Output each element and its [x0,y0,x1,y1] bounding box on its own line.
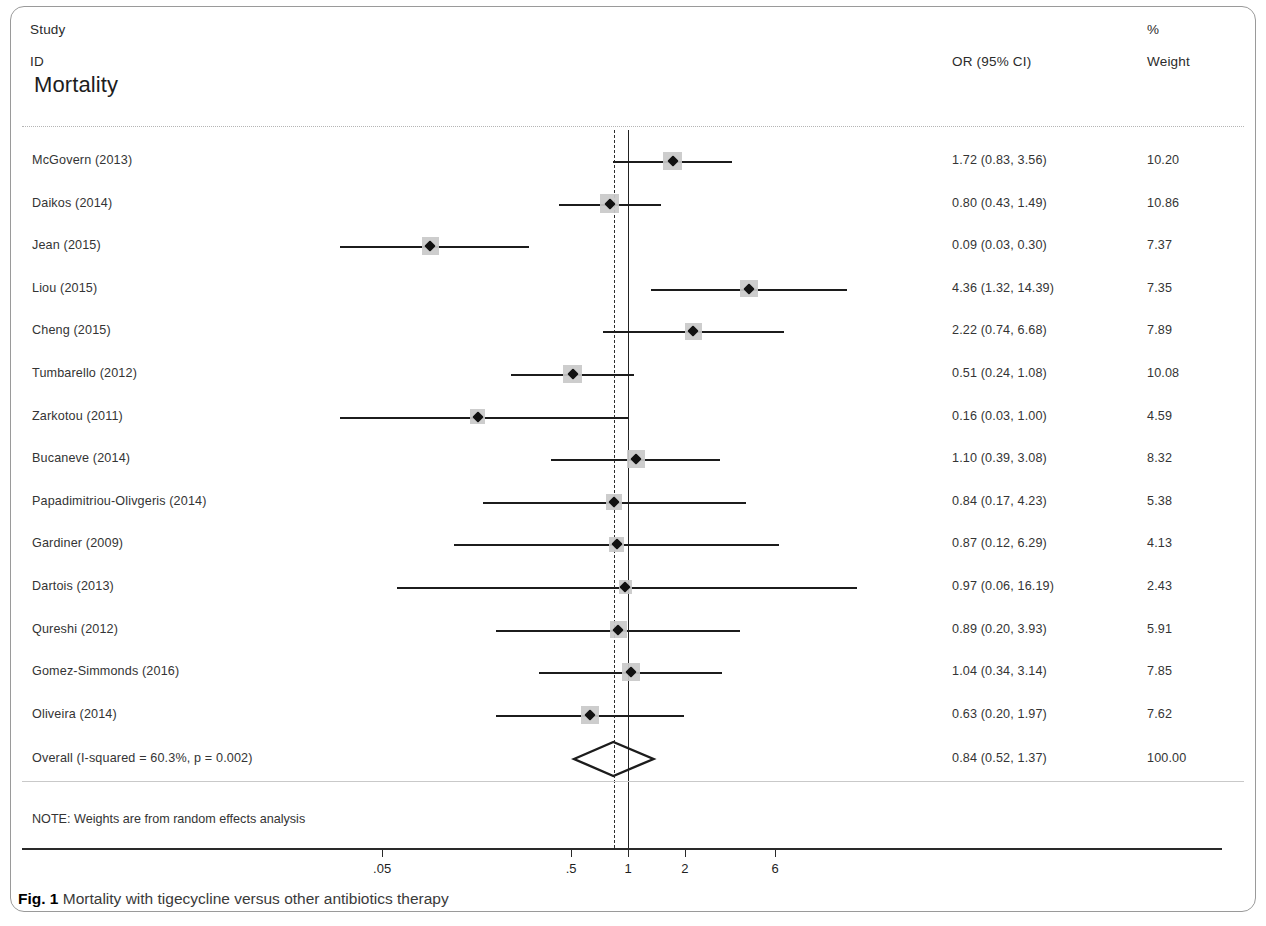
forest-plot-figure: Study ID OR (95% CI) % Weight Mortality … [0,0,1266,926]
study-label: Gardiner (2009) [32,536,123,550]
weight-value: 7.85 [1147,664,1172,678]
or-value: 0.09 (0.03, 0.30) [952,238,1047,252]
note-text: NOTE: Weights are from random effects an… [32,812,305,826]
or-value: 0.16 (0.03, 1.00) [952,409,1047,423]
study-label: Cheng (2015) [32,323,111,337]
note-divider [22,781,1244,782]
weight-value: 5.91 [1147,622,1172,636]
or-value: 0.80 (0.43, 1.49) [952,196,1047,210]
or-value: 0.89 (0.20, 3.93) [952,622,1047,636]
column-header-weight: Weight [1147,54,1190,69]
study-label: Dartois (2013) [32,579,114,593]
x-axis-tick-label: 1 [624,861,631,876]
or-value: 0.84 (0.17, 4.23) [952,494,1047,508]
overall-weight-value: 100.00 [1147,751,1186,765]
study-label: Bucaneve (2014) [32,451,130,465]
weight-value: 5.38 [1147,494,1172,508]
pooled-estimate-diamond [571,739,657,779]
column-header-study: Study [30,22,66,37]
or-value: 1.04 (0.34, 3.14) [952,664,1047,678]
or-value: 2.22 (0.74, 6.68) [952,323,1047,337]
weight-value: 10.86 [1147,196,1179,210]
x-axis-tick [685,848,686,857]
x-axis-tick [571,848,572,857]
study-label: Daikos (2014) [32,196,112,210]
study-label: Liou (2015) [32,281,97,295]
study-label: Tumbarello (2012) [32,366,137,380]
x-axis-tick-label: 6 [771,861,778,876]
weight-value: 2.43 [1147,579,1172,593]
study-label: Oliveira (2014) [32,707,117,721]
weight-value: 10.08 [1147,366,1179,380]
study-label: Papadimitriou-Olivgeris (2014) [32,494,207,508]
x-axis-tick [382,848,383,857]
figure-caption: Fig. 1 Mortality with tigecycline versus… [18,890,449,908]
weight-value: 7.89 [1147,323,1172,337]
x-axis-tick [628,848,629,857]
or-value: 0.51 (0.24, 1.08) [952,366,1047,380]
header-divider [22,126,1244,127]
overall-or-value: 0.84 (0.52, 1.37) [952,751,1047,765]
weight-value: 7.37 [1147,238,1172,252]
or-value: 1.10 (0.39, 3.08) [952,451,1047,465]
overall-label: Overall (I-squared = 60.3%, p = 0.002) [32,751,253,765]
or-value: 0.87 (0.12, 6.29) [952,536,1047,550]
weight-value: 4.13 [1147,536,1172,550]
column-header-percent: % [1147,22,1159,37]
or-value: 1.72 (0.83, 3.56) [952,153,1047,167]
or-value: 0.97 (0.06, 16.19) [952,579,1054,593]
column-header-id: ID [30,54,44,69]
or-value: 4.36 (1.32, 14.39) [952,281,1054,295]
figure-caption-label: Fig. 1 [18,890,58,907]
weight-value: 8.32 [1147,451,1172,465]
x-axis-tick-label: .05 [373,861,391,876]
or-value: 0.63 (0.20, 1.97) [952,707,1047,721]
x-axis-tick-label: .5 [566,861,577,876]
weight-value: 10.20 [1147,153,1179,167]
study-label: Jean (2015) [32,238,101,252]
study-label: Qureshi (2012) [32,622,118,636]
column-header-or: OR (95% CI) [952,54,1031,69]
figure-caption-text: Mortality with tigecycline versus other … [63,890,449,907]
weight-value: 7.35 [1147,281,1172,295]
x-axis-tick-label: 2 [681,861,688,876]
section-title-mortality: Mortality [34,72,118,98]
weight-value: 7.62 [1147,707,1172,721]
x-axis-tick [775,848,776,857]
study-label: Zarkotou (2011) [32,409,123,423]
study-label: Gomez-Simmonds (2016) [32,664,179,678]
forest-plot-canvas: Study ID OR (95% CI) % Weight Mortality … [0,0,1266,880]
x-axis-line [22,848,1222,850]
study-label: McGovern (2013) [32,153,132,167]
weight-value: 4.59 [1147,409,1172,423]
